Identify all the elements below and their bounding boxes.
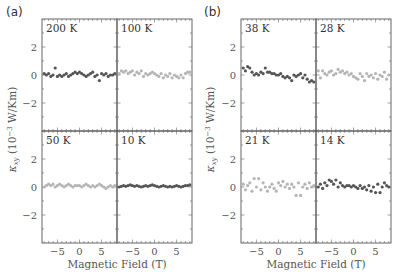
y-tick-label: 0 [230,182,236,193]
data-point [142,75,145,78]
y-tick-label: 2 [31,42,37,53]
data-point [242,183,245,186]
y-tick-label: 0 [230,70,236,81]
data-point [385,78,388,81]
data-point [295,194,298,197]
data-point [168,72,171,75]
data-point [334,178,337,181]
data-point [264,66,267,69]
data-point [301,185,304,188]
data-point [54,66,57,69]
subplot-50k: 50 K−202−505 [22,131,117,257]
data-point [288,76,291,79]
data-point [279,72,282,75]
data-point [332,183,335,186]
data-point [275,190,278,193]
x-tick-label: 0 [76,246,82,257]
data-point [277,181,280,184]
subplot-200k: 200 K−202 [22,19,117,131]
data-point [319,183,322,186]
y-axis-title: κxy (10−3 W/Km) [6,87,20,174]
data-point [363,185,366,188]
data-point [166,75,169,78]
data-point [131,69,134,72]
data-point [157,75,160,78]
temperature-label: 10 K [121,134,146,146]
data-point [303,183,306,186]
subplot-21k: 21 K−202−505 [221,131,316,257]
data-point [47,72,50,75]
data-point [268,185,271,188]
data-point [308,181,311,184]
data-point [246,184,249,187]
data-point [356,187,359,190]
data-point [248,181,251,184]
temperature-label: 14 K [320,134,345,146]
data-point [270,183,273,186]
data-point [242,66,245,69]
y-tick-label: −2 [221,98,236,109]
data-point [303,73,306,76]
data-point [370,190,373,193]
data-point [288,187,291,190]
y-tick-label: 0 [31,182,37,193]
x-tick-label: 5 [372,246,378,257]
subplot-100k: 100 K [117,19,192,131]
data-point [257,177,260,180]
data-point [118,72,121,75]
data-point [345,71,348,74]
data-point [91,71,94,74]
data-point [257,73,260,76]
y-tick-label: −2 [22,210,37,221]
data-point [356,78,359,81]
y-axis-title: κxy (10−3 W/Km) [204,87,218,174]
x-tick-label: 0 [350,246,356,257]
data-point [374,191,377,194]
data-point [262,72,265,75]
data-point [266,190,269,193]
data-point [301,76,304,79]
data-point [330,180,333,183]
data-point [253,177,256,180]
data-point [381,185,384,188]
data-point [367,184,370,187]
data-point [339,181,342,184]
data-point [188,183,191,186]
data-point [325,73,328,76]
data-point [96,73,99,76]
data-point [244,69,247,72]
data-point [281,180,284,183]
data-point [138,72,141,75]
data-point [259,188,262,191]
data-point [188,71,191,74]
data-point [290,183,293,186]
data-point [321,187,324,190]
temperature-label: 100 K [121,22,152,34]
x-axis-title: Magnetic Field (T) [267,258,366,270]
panel-letter: (b) [204,5,221,19]
y-tick-label: 2 [31,154,37,165]
data-point [387,185,390,188]
data-point [365,188,368,191]
data-point [244,188,247,191]
data-point [383,71,386,74]
data-point [374,72,377,75]
subplot-frame [241,131,316,243]
subplot-38k: 38 K−202 [221,19,316,131]
data-point [299,72,302,75]
data-point [160,72,163,75]
data-point [104,72,107,75]
data-point [370,73,373,76]
data-point [98,79,101,82]
data-point [292,185,295,188]
temperature-label: 200 K [46,22,77,34]
panel-b: (b)38 K−20228 K21 K−202−50514 K−505Magne… [204,5,391,270]
x-tick-label: −5 [125,246,140,257]
panel-letter: (a) [6,5,23,19]
data-point [250,71,253,74]
temperature-label: 50 K [46,134,71,146]
x-tick-label: −5 [249,246,264,257]
temperature-label: 38 K [245,22,270,34]
data-point [325,184,328,187]
data-point [317,69,320,72]
